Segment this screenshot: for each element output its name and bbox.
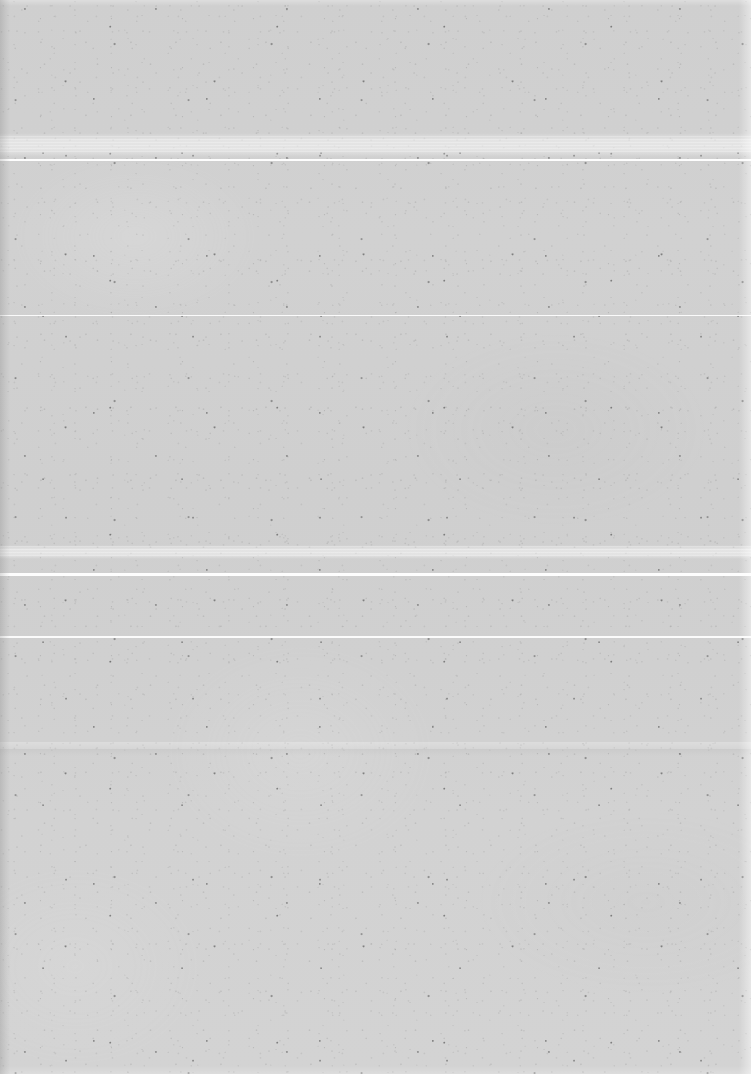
- page-content-area: [0, 0, 751, 1074]
- scanned-page: [0, 0, 751, 1074]
